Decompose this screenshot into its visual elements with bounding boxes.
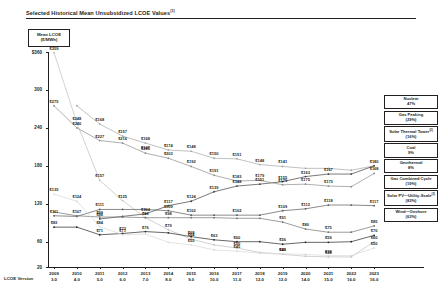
series-marker: [53, 193, 55, 195]
legend-item-nuclear[interactable]: Nuclear47%: [384, 95, 438, 109]
series-marker: [259, 183, 261, 185]
series-marker: [190, 166, 192, 168]
series-marker: [190, 200, 192, 202]
legend-item-solar-pv-utility-scale[interactable]: Solar PV—Utility-Scale(3)(83%): [384, 190, 438, 206]
data-point-label: $216: [118, 136, 127, 141]
legend: Nuclear47%Gas Peaking(29%)Solar Thermal …: [384, 95, 438, 223]
series-marker: [236, 185, 238, 187]
series-marker: [350, 186, 352, 188]
data-point-label: $148: [232, 179, 241, 184]
series-marker: [190, 214, 192, 216]
series-marker: [350, 204, 352, 206]
legend-item-geothermal[interactable]: Geothermal8%: [384, 159, 438, 173]
legend-item-gas-combined-cycle[interactable]: Gas Combined Cycle(19%): [384, 175, 438, 189]
data-point-label: $80: [302, 222, 309, 227]
series-marker: [53, 226, 55, 228]
data-point-label: $63: [211, 232, 218, 237]
series-marker: [328, 241, 330, 243]
data-point-label: $71: [119, 227, 126, 232]
series-marker: [282, 184, 284, 186]
data-point-label: $168: [141, 136, 150, 141]
series-marker: [328, 204, 330, 206]
data-point-label: $359: [50, 45, 59, 50]
data-point-label: $99: [96, 210, 103, 215]
series-marker: [190, 150, 192, 152]
series-marker: [213, 214, 215, 216]
series-marker: [213, 191, 215, 193]
data-point-label: $192: [187, 159, 196, 164]
data-point-label: $191: [210, 168, 219, 173]
legend-item-coal[interactable]: Coal9%: [384, 143, 438, 157]
data-point-label: $102: [232, 208, 241, 213]
data-point-label: $157: [95, 173, 104, 178]
data-point-label: $109: [278, 203, 287, 208]
data-point-label: $168: [95, 117, 104, 122]
series-marker: [236, 217, 238, 219]
series-marker: [259, 217, 261, 219]
legend-item-percent: 9%: [408, 151, 414, 156]
data-point-label: $168: [370, 166, 379, 171]
series-marker: [282, 166, 284, 168]
series-marker: [373, 247, 375, 249]
data-point-label: $148: [255, 157, 264, 162]
legend-item-solar-thermal-tower[interactable]: Solar Thermal Tower(2)(16%): [384, 126, 438, 142]
series-marker: [145, 231, 147, 233]
series-marker: [328, 255, 330, 257]
series-marker: [305, 241, 307, 243]
data-point-label: $125: [118, 193, 127, 198]
data-point-label: $56: [279, 237, 286, 242]
data-point-label: $124: [72, 194, 81, 199]
data-point-label: $112: [301, 201, 310, 206]
series-marker: [282, 253, 284, 255]
series-marker: [167, 157, 169, 159]
legend-item-wind-onshore[interactable]: Wind—Onshore(63%): [384, 208, 438, 222]
series-marker: [122, 216, 124, 218]
series-marker: [122, 142, 124, 144]
series-marker: [76, 215, 78, 217]
data-point-label: $85: [371, 218, 378, 223]
legend-item-gas-peaking[interactable]: Gas Peaking(29%): [384, 111, 438, 125]
data-point-label: $173: [324, 179, 333, 184]
data-point-label: $151: [232, 151, 241, 156]
data-point-label: $148: [187, 144, 196, 149]
series-marker: [282, 243, 284, 245]
x-axis-caption: LCOE Version: [4, 276, 33, 281]
data-point-label: $55: [188, 237, 195, 242]
series-marker: [350, 173, 352, 175]
data-point-label: $151: [255, 177, 264, 182]
series-marker: [99, 234, 101, 236]
legend-footnote-marker: (2): [429, 128, 432, 132]
series-marker: [213, 239, 215, 241]
data-point-label: $275: [50, 98, 59, 103]
data-point-label: $98: [142, 210, 149, 215]
data-point-label: $36: [325, 249, 332, 254]
series-marker: [350, 241, 352, 243]
series-marker: [236, 158, 238, 160]
data-point-label: $50: [371, 241, 378, 246]
data-point-label: $60: [371, 234, 378, 239]
data-point-label: $109: [164, 203, 173, 208]
data-point-label: $139: [210, 184, 219, 189]
series-marker: [76, 226, 78, 228]
series-marker: [167, 241, 169, 243]
series-marker: [76, 200, 78, 202]
series-marker: [145, 233, 147, 235]
data-point-label: $111: [50, 208, 58, 213]
data-point-label: $75: [325, 225, 332, 230]
series-marker: [145, 217, 147, 219]
series-marker: [213, 249, 215, 251]
series-marker: [99, 123, 101, 125]
data-point-label: $50: [234, 241, 241, 246]
series-marker: [373, 205, 375, 207]
data-point-label: $157: [118, 129, 127, 134]
chart-plot-area: [0, 0, 442, 293]
data-point-label: $40: [279, 247, 286, 252]
data-point-label: $111: [95, 202, 103, 207]
series-marker: [190, 217, 192, 219]
series-marker: [213, 174, 215, 176]
data-point-label: $117: [370, 198, 379, 203]
series-marker: [373, 173, 375, 175]
data-point-label: $118: [324, 198, 333, 203]
data-point-label: $71: [96, 227, 103, 232]
legend-item-percent: (63%): [406, 215, 417, 220]
